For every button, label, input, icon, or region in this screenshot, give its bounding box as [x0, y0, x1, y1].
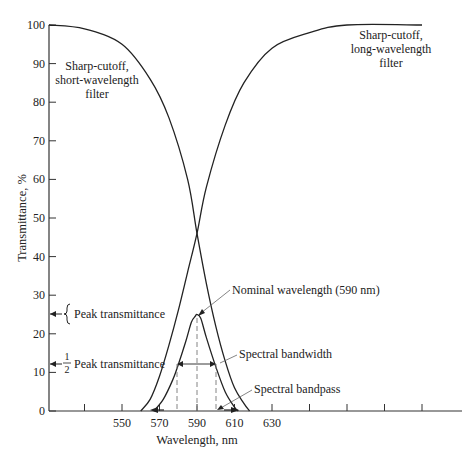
short-filter-label-1: Sharp-cutoff, [65, 59, 128, 73]
y-tick-label: 90 [33, 57, 45, 71]
spectral-bandpass-label: Spectral bandpass [254, 382, 341, 396]
nominal-arrow-icon [198, 309, 205, 316]
peak-brace-icon [64, 304, 70, 324]
x-tick-label: 550 [113, 416, 131, 430]
long-filter-label-1: Sharp-cutoff, [359, 28, 422, 42]
x-tick-label: 590 [188, 416, 206, 430]
peak-transmittance-label: Peak transmittance [74, 307, 165, 321]
long-filter-label-2: long-wavelength [351, 42, 432, 56]
short-filter-label-2: short-wavelength [55, 73, 138, 87]
spectral-bandwidth-label: Spectral bandwidth [239, 347, 332, 361]
y-tick-label: 30 [33, 288, 45, 302]
x-axis-title: Wavelength, nm [156, 433, 238, 447]
y-tick-label: 80 [33, 95, 45, 109]
y-tick-label: 10 [33, 365, 45, 379]
y-tick-label: 40 [33, 250, 45, 264]
bandpass-leader-arrow-icon [217, 405, 224, 410]
y-axis-title: Transmittance, % [15, 174, 29, 262]
y-tick-label: 0 [39, 404, 45, 418]
x-tick-label: 570 [151, 416, 169, 430]
half-peak-arrow-icon [50, 361, 56, 367]
half-denominator: 2 [65, 364, 70, 375]
short-filter-label-3: filter [85, 87, 108, 101]
x-tick-label: 630 [263, 416, 281, 430]
annotations: Transmittance, % Wavelength, nm Sharp-cu… [15, 28, 431, 447]
transmittance-chart: 0102030405060708090100550570590610630 Tr… [0, 0, 474, 456]
half-numerator: 1 [65, 351, 70, 362]
y-tick-label: 20 [33, 327, 45, 341]
bandwidth-leader-line [220, 355, 237, 363]
y-tick-label: 100 [27, 18, 45, 32]
bandpass-leader-line [219, 390, 252, 409]
long-filter-label-3: filter [379, 56, 402, 70]
nominal-leader-line [201, 290, 230, 313]
y-tick-label: 70 [33, 134, 45, 148]
x-tick-label: 610 [226, 416, 244, 430]
peak-arrow-icon [50, 311, 56, 317]
y-tick-label: 50 [33, 211, 45, 225]
y-tick-label: 60 [33, 172, 45, 186]
nominal-wavelength-label: Nominal wavelength (590 nm) [232, 283, 380, 297]
half-peak-label: Peak transmittance [74, 357, 165, 371]
